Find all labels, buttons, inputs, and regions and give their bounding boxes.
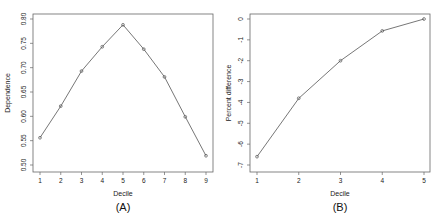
x-tick-label: 4 [380, 177, 384, 184]
x-tick-label: 3 [339, 177, 343, 184]
panel-label: (B) [333, 201, 348, 213]
chart-b-percent-difference: 12345-7-6-5-4-3-2-10DecilePercent differ… [0, 0, 441, 215]
figure: 1234567890.500.550.600.650.700.750.80Dec… [0, 0, 441, 215]
data-line [257, 19, 424, 157]
y-tick-label: -6 [237, 141, 244, 147]
x-tick-label: 2 [297, 177, 301, 184]
y-tick-label: -4 [237, 99, 244, 105]
x-tick-label: 1 [255, 177, 259, 184]
y-axis-title: Percent difference [225, 65, 232, 122]
y-tick-label: -3 [237, 78, 244, 84]
y-tick-label: -1 [237, 37, 244, 43]
plot-frame [250, 14, 430, 172]
y-tick-label: 0 [237, 17, 244, 21]
x-tick-label: 5 [422, 177, 426, 184]
y-tick-label: -2 [237, 57, 244, 63]
x-axis-title: Decile [330, 190, 350, 197]
y-tick-label: -5 [237, 120, 244, 126]
y-tick-label: -7 [237, 162, 244, 168]
